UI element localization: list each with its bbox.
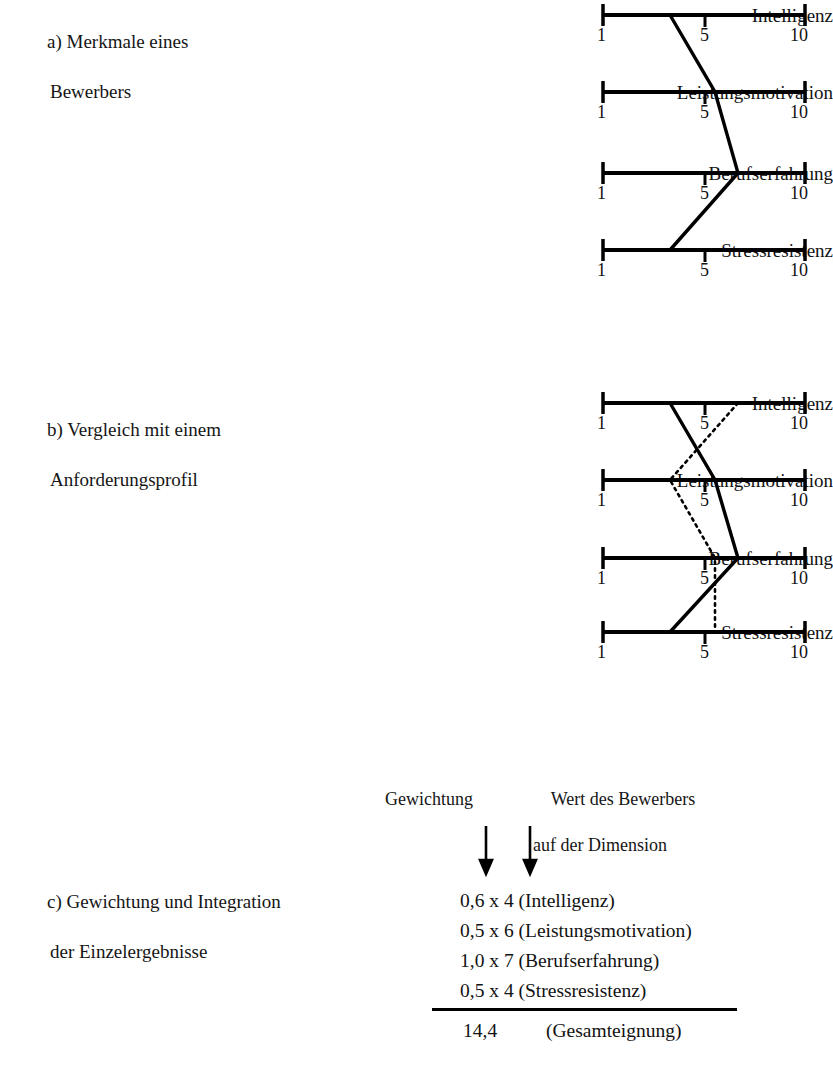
panel-a-tick-2-mid: 5: [700, 103, 709, 121]
panel-a-axis-lines: [602, 15, 806, 250]
panel-b-tick-4-min: 1: [597, 643, 606, 661]
arrow-down-icon-gewichtung-head: [480, 860, 492, 874]
panel-b-tick-1-mid: 5: [700, 414, 709, 432]
panel-a-axes-and-profile: [0, 0, 833, 300]
panel-c-calc-row-stressresistenz: 0,5 x 4 (Stressresistenz): [460, 976, 646, 1006]
panel-a-tick-4-min: 1: [597, 261, 606, 279]
panel-a-tick-4-mid: 5: [700, 261, 709, 279]
panel-c-total-label: (Gesamteignung): [546, 1016, 681, 1046]
panel-b-tick-3-min: 1: [597, 569, 606, 587]
panel-b-tick-3-max: 10: [790, 569, 808, 587]
panel-b-tick-4-max: 10: [790, 643, 808, 661]
panel-a-tick-2-min: 1: [597, 103, 606, 121]
panel-a-tick-1-max: 10: [790, 26, 808, 44]
panel-c-calc-row-leistungsmotivation: 0,5 x 6 (Leistungsmotivation): [460, 916, 692, 946]
panel-a-tick-3-min: 1: [597, 184, 606, 202]
panel-c-arrows: [0, 746, 833, 1070]
panel-b-tick-2-max: 10: [790, 491, 808, 509]
panel-a-tick-2-max: 10: [790, 103, 808, 121]
panel-b-tick-1-max: 10: [790, 414, 808, 432]
panel-b-applicant-profile-line: [670, 403, 738, 632]
panel-a-tick-1-min: 1: [597, 26, 606, 44]
panel-b-tick-1-min: 1: [597, 414, 606, 432]
panel-a-tick-4-max: 10: [790, 261, 808, 279]
panel-c: c) Gewichtung und Integration der Einzel…: [0, 746, 833, 1070]
panel-c-sum-rule: [432, 1008, 737, 1011]
arrow-down-icon-wert-head: [524, 860, 536, 874]
panel-b-tick-2-min: 1: [597, 491, 606, 509]
panel-c-calc-row-intelligenz: 0,6 x 4 (Intelligenz): [460, 886, 615, 916]
panel-a-applicant-profile-line: [670, 15, 738, 250]
panel-a-tick-1-mid: 5: [700, 26, 709, 44]
panel-b-tick-4-mid: 5: [700, 643, 709, 661]
panel-b-axis-lines: [602, 403, 806, 632]
panel-c-calc-row-berufserfahrung: 1,0 x 7 (Berufserfahrung): [460, 946, 659, 976]
panel-a-tick-3-max: 10: [790, 184, 808, 202]
panel-c-total-value: 14,4: [463, 1016, 497, 1046]
panel-b: b) Vergleich mit einem Anforderungsprofi…: [0, 388, 833, 678]
panel-b-tick-3-mid: 5: [700, 569, 709, 587]
panel-b-tick-2-mid: 5: [700, 491, 709, 509]
panel-a-tick-3-mid: 5: [700, 184, 709, 202]
